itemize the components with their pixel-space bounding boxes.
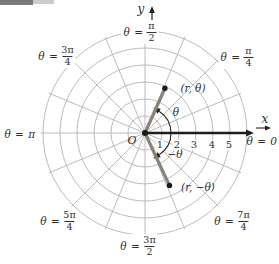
angle-label-7pi-over-4-denominator: 4 bbox=[238, 221, 248, 232]
angle-neg-theta-label: −θ bbox=[167, 149, 182, 160]
angle-label-3pi-over-2-denominator: 2 bbox=[144, 246, 154, 257]
angle-label-7pi-over-4-numerator: 7π bbox=[237, 210, 249, 220]
point-r-neg-theta-label: (r, −θ) bbox=[181, 182, 215, 193]
angle-label-3pi-over-2-prefix: θ = bbox=[120, 241, 140, 252]
angle-label-pi-over-2-fraction: π2 bbox=[146, 21, 156, 43]
angle-label-3pi-over-4-denominator: 4 bbox=[62, 56, 72, 67]
x-axis-label: x bbox=[262, 113, 269, 125]
x-tick-3: 3 bbox=[190, 140, 198, 150]
angle-label-3pi-over-2: θ =3π2 bbox=[118, 234, 157, 258]
angle-label-zero-text: θ = 0 bbox=[247, 136, 278, 147]
angle-label-5pi-over-4-numerator: 5π bbox=[63, 210, 75, 220]
angle-label-pi-over-2-denominator: 2 bbox=[146, 32, 156, 43]
angle-theta-label: θ bbox=[173, 107, 179, 118]
x-tick-2: 2 bbox=[173, 140, 181, 150]
angle-label-5pi-over-4-denominator: 4 bbox=[64, 221, 74, 232]
x-tick-5: 5 bbox=[225, 140, 233, 150]
angle-label-7pi-over-4-fraction: 7π4 bbox=[237, 210, 249, 232]
angle-label-pi-over-2: θ =π2 bbox=[121, 20, 158, 44]
angle-label-pi-over-4-fraction: π4 bbox=[243, 46, 253, 68]
origin-label: O bbox=[127, 135, 136, 146]
angle-label-pi-text: θ = π bbox=[4, 129, 35, 140]
angle-label-3pi-over-4: θ =3π4 bbox=[36, 44, 75, 68]
angle-label-pi-over-4: θ =π4 bbox=[218, 45, 255, 69]
angle-label-3pi-over-4-prefix: θ = bbox=[38, 51, 58, 62]
angle-label-5pi-over-4: θ =5π4 bbox=[38, 209, 77, 233]
label-overlay: y x O θ −θ (r, θ) (r, −θ) θ =π2θ =3π4θ =… bbox=[0, 0, 279, 264]
angle-label-3pi-over-4-numerator: 3π bbox=[61, 45, 73, 55]
polar-coordinate-diagram: y x O θ −θ (r, θ) (r, −θ) θ =π2θ =3π4θ =… bbox=[0, 0, 279, 264]
angle-label-5pi-over-4-prefix: θ = bbox=[40, 216, 60, 227]
angle-label-zero: θ = 0 bbox=[247, 136, 278, 147]
angle-label-pi-over-4-denominator: 4 bbox=[243, 57, 253, 68]
angle-label-pi-over-2-numerator: π bbox=[148, 21, 154, 31]
angle-label-3pi-over-2-numerator: 3π bbox=[143, 235, 155, 245]
angle-label-3pi-over-2-fraction: 3π2 bbox=[143, 235, 155, 257]
angle-label-7pi-over-4-prefix: θ = bbox=[214, 216, 234, 227]
angle-label-pi-over-4-prefix: θ = bbox=[220, 52, 240, 63]
angle-label-5pi-over-4-fraction: 5π4 bbox=[63, 210, 75, 232]
y-axis-label: y bbox=[138, 3, 145, 15]
angle-label-pi-over-2-prefix: θ = bbox=[123, 27, 143, 38]
x-tick-1: 1 bbox=[156, 140, 164, 150]
scan-artifact-1 bbox=[33, 0, 54, 4]
angle-label-pi-over-4-numerator: π bbox=[245, 46, 251, 56]
x-tick-4: 4 bbox=[208, 140, 216, 150]
point-r-theta-label: (r, θ) bbox=[180, 83, 205, 94]
angle-label-pi: θ = π bbox=[4, 129, 35, 140]
angle-label-7pi-over-4: θ =7π4 bbox=[212, 209, 251, 233]
scan-artifact-0 bbox=[0, 0, 33, 5]
angle-label-3pi-over-4-fraction: 3π4 bbox=[61, 45, 73, 67]
